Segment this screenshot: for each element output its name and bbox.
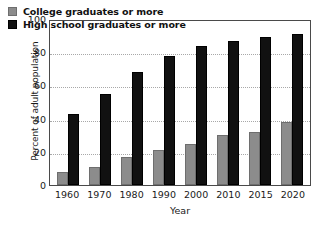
y-axis-tick: 60	[6, 81, 46, 91]
bar-group	[276, 21, 308, 185]
legend-swatch-icon	[8, 7, 17, 16]
legend-label: College graduates or more	[23, 6, 163, 17]
bar-group	[84, 21, 116, 185]
bar-groups	[50, 21, 310, 185]
bar-group	[212, 21, 244, 185]
x-axis-title: Year	[49, 205, 311, 216]
y-axis-tick: 20	[6, 148, 46, 158]
bar	[164, 56, 175, 185]
bar	[196, 46, 207, 185]
y-axis-title: Percent of adult population	[30, 11, 40, 191]
y-axis-tick: 80	[6, 48, 46, 58]
bar	[100, 94, 111, 185]
bar	[68, 114, 79, 185]
bar-group	[116, 21, 148, 185]
bar-chart: Percent of adult population 0 20 40 60 8…	[0, 0, 323, 231]
legend-item-highschool: High school graduates or more	[8, 18, 186, 30]
bar-group	[148, 21, 180, 185]
legend: College graduates or more High school gr…	[8, 5, 186, 31]
bar	[121, 157, 132, 185]
legend-swatch-icon	[8, 20, 17, 29]
x-axis-tick: 2015	[245, 189, 277, 200]
x-axis-tick: 1960	[51, 189, 83, 200]
bar	[228, 41, 239, 185]
bar	[57, 172, 68, 185]
bar	[153, 150, 164, 185]
bar	[132, 72, 143, 185]
legend-label: High school graduates or more	[23, 19, 186, 30]
bar-group	[180, 21, 212, 185]
bar-group	[52, 21, 84, 185]
legend-item-college: College graduates or more	[8, 5, 186, 17]
y-axis-tick: 0	[6, 181, 46, 191]
bar-group	[244, 21, 276, 185]
x-axis-ticks: 19601970198019902000201020152020	[49, 189, 311, 200]
x-axis-tick: 1980	[116, 189, 148, 200]
x-axis-tick: 1970	[83, 189, 115, 200]
bar	[281, 122, 292, 185]
x-axis-tick: 2020	[277, 189, 309, 200]
x-axis-tick: 2010	[212, 189, 244, 200]
bar	[217, 135, 228, 185]
bar	[249, 132, 260, 185]
bar	[260, 37, 271, 185]
y-axis-tick: 40	[6, 115, 46, 125]
plot-area	[49, 20, 311, 186]
bar	[292, 34, 303, 185]
x-axis-tick: 1990	[148, 189, 180, 200]
bar	[185, 144, 196, 186]
x-axis-tick: 2000	[180, 189, 212, 200]
bar	[89, 167, 100, 185]
